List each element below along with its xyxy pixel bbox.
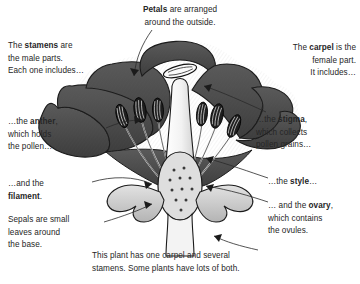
label-anther: …the anther,which holdsthe pollen… [8,116,104,154]
caption-text: This plant has one carpel and severalsta… [92,250,262,275]
label-sepals: Sepals are smallleaves aroundthe base. [8,214,104,252]
leader-filament [92,178,152,184]
label-petals: Petals are arrangedaround the outside. [116,4,244,29]
label-carpel: The carpel is thefemale part.It includes… [252,42,356,80]
label-stamens: The stamens arethe male parts.Each one i… [8,40,116,78]
label-style: …the style… [268,176,356,189]
arrowhead-caption [214,234,222,242]
label-stigma: …the stigma,which collectspollen grains… [256,114,356,152]
label-ovary: … and the ovary,which containsthe ovules… [268,200,358,238]
flower-diagram-page: Petals are arrangedaround the outside. T… [0,0,360,284]
leader-caption [214,236,258,250]
label-filament: …and thefilament. [8,178,88,203]
